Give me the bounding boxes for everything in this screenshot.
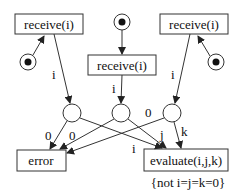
arc-label: 0 xyxy=(45,128,52,143)
transition-label: receive(i) xyxy=(24,17,74,32)
token-place-center xyxy=(114,14,130,30)
transition-receive-right: receive(i) xyxy=(160,14,228,34)
transition-label: evaluate(i,j,k) xyxy=(150,153,222,168)
place-p3 xyxy=(163,104,181,122)
guard-label: {not i=j=k=0} xyxy=(151,175,226,190)
transition-error: error xyxy=(17,150,66,171)
transition-receive-center: receive(i) xyxy=(88,55,156,75)
arc-label: i xyxy=(52,67,56,82)
arc-label: 0 xyxy=(69,128,76,143)
token-place-right xyxy=(208,54,224,70)
arc-label: i xyxy=(112,81,116,96)
token-icon xyxy=(119,19,126,26)
place-p1 xyxy=(63,104,81,122)
transition-receive-left: receive(i) xyxy=(15,14,83,34)
token-icon xyxy=(25,59,32,66)
arc-label: j xyxy=(159,127,164,142)
arc-label: i xyxy=(132,141,136,156)
arc-label: i xyxy=(171,67,175,82)
place-p2 xyxy=(112,104,130,122)
transition-label: error xyxy=(28,153,54,168)
petri-net-diagram: receive(i) receive(i) receive(i) error e… xyxy=(0,0,240,196)
arc-label: k xyxy=(181,124,188,139)
transition-evaluate: evaluate(i,j,k) xyxy=(144,149,228,171)
transition-label: receive(i) xyxy=(169,17,219,32)
arc-label: 0 xyxy=(145,105,152,120)
token-place-left xyxy=(20,54,36,70)
token-icon xyxy=(213,59,220,66)
transition-label: receive(i) xyxy=(97,58,147,73)
